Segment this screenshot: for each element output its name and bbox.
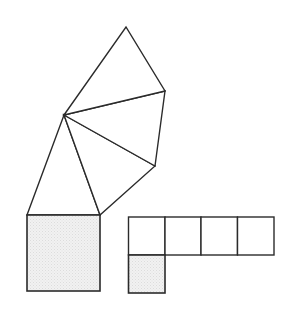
grid-cell — [238, 217, 275, 255]
unit-square-grid — [129, 217, 275, 293]
grid-cell — [165, 217, 201, 255]
shaded-square — [27, 215, 100, 291]
triangle-fan — [27, 27, 165, 215]
grid-cell-shaded — [129, 255, 166, 293]
geometry-diagram — [0, 0, 301, 317]
big-square — [27, 215, 100, 291]
grid-cell — [129, 217, 166, 255]
grid-cell — [201, 217, 238, 255]
